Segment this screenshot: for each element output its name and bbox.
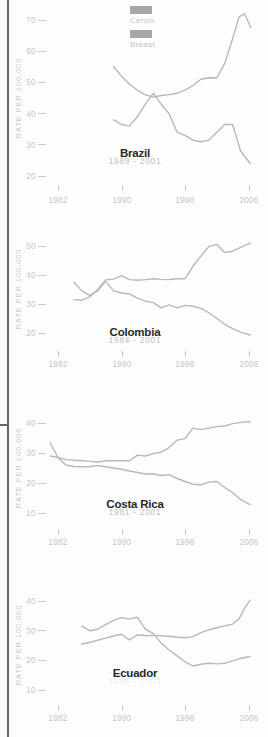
ecuador-period: 1985 - 2003	[4, 676, 266, 686]
colombia-y-axis-label: RATE PER 100,000	[14, 219, 26, 359]
x-tick-mark-2006	[249, 705, 250, 711]
left-border-line	[7, 0, 9, 737]
x-tick-label-2006: 2006	[232, 713, 264, 723]
ecuador-y-axis-label: RATE PER 100,000	[14, 575, 26, 715]
ecuador-lines-svg	[0, 0, 268, 737]
brazil-period: 1989 - 2001	[4, 156, 266, 166]
left-border-tick	[0, 424, 8, 426]
x-tick-label-2006: 2006	[232, 195, 264, 205]
x-tick-label-1998: 1998	[169, 537, 201, 547]
brazil-title: Brazil	[120, 147, 150, 159]
brazil-title-block: Brazil	[0, 143, 268, 161]
x-tick-label-1998: 1998	[169, 359, 201, 369]
cervix-line	[50, 443, 250, 505]
cervix-legend-swatch	[130, 6, 152, 14]
costa-rica-y-axis-label: RATE PER 100,000	[14, 398, 26, 538]
costa-rica-lines-svg	[0, 0, 268, 737]
x-tick-mark-1982	[58, 185, 59, 191]
cervix-line	[74, 281, 250, 335]
chart-panel: 706050403020 1982199019982006 RATE PER 1…	[0, 0, 268, 737]
breast-legend-label: Breast	[130, 40, 155, 49]
x-tick-mark-1998	[185, 705, 186, 711]
colombia-lines-svg	[0, 0, 268, 737]
breast-legend-swatch	[130, 30, 152, 38]
chart-colombia: 50403020 1982199019982006 RATE PER 100,0…	[0, 0, 268, 737]
x-tick-label-1998: 1998	[169, 713, 201, 723]
x-tick-mark-1982	[58, 529, 59, 535]
brazil-y-axis-label: RATE PER 100,000	[14, 28, 26, 168]
x-tick-mark-1998	[185, 185, 186, 191]
x-tick-mark-1982	[58, 705, 59, 711]
x-tick-label-1982: 1982	[42, 195, 74, 205]
x-tick-label-2006: 2006	[232, 359, 264, 369]
x-tick-label-1990: 1990	[105, 713, 137, 723]
chart-ecuador: 40302010 1982199019982006 RATE PER 100,0…	[0, 0, 268, 737]
chart-legend: Cervix Breast	[130, 6, 155, 51]
x-tick-mark-1990	[122, 705, 123, 711]
x-tick-mark-1990	[122, 529, 123, 535]
x-tick-label-1990: 1990	[105, 537, 137, 547]
breast-line	[74, 243, 250, 300]
cervix-legend-label: Cervix	[130, 16, 155, 25]
x-tick-mark-2006	[249, 351, 250, 357]
costa-rica-title-block: Costa Rica	[0, 494, 268, 512]
x-tick-label-1982: 1982	[42, 713, 74, 723]
x-tick-label-1990: 1990	[105, 359, 137, 369]
x-tick-label-2006: 2006	[232, 537, 264, 547]
costa-rica-period: 1981 - 2001	[4, 507, 266, 517]
ecuador-title: Ecuador	[113, 667, 158, 679]
breast-line	[82, 600, 250, 644]
breast-line	[50, 422, 250, 462]
ecuador-title-block: Ecuador	[0, 663, 268, 681]
x-tick-label-1998: 1998	[169, 195, 201, 205]
colombia-period: 1984 - 2001	[4, 335, 266, 345]
brazil-lines-svg	[0, 0, 268, 737]
colombia-title: Colombia	[110, 326, 161, 338]
colombia-title-block: Colombia	[0, 322, 268, 340]
costa-rica-title: Costa Rica	[106, 498, 163, 510]
breast-line	[114, 14, 251, 97]
x-tick-mark-2006	[249, 529, 250, 535]
cervix-line	[114, 93, 251, 163]
x-tick-label-1982: 1982	[42, 359, 74, 369]
chart-brazil: 706050403020 1982199019982006 RATE PER 1…	[0, 0, 268, 737]
x-tick-mark-2006	[249, 185, 250, 191]
x-tick-label-1990: 1990	[105, 195, 137, 205]
x-tick-mark-1998	[185, 351, 186, 357]
x-tick-mark-1990	[122, 185, 123, 191]
x-tick-label-1982: 1982	[42, 537, 74, 547]
x-tick-mark-1990	[122, 351, 123, 357]
cervix-line	[82, 617, 250, 666]
x-tick-mark-1982	[58, 351, 59, 357]
chart-costa-rica: 40302010 1982199019982006 RATE PER 100,0…	[0, 0, 268, 737]
x-tick-mark-1998	[185, 529, 186, 535]
